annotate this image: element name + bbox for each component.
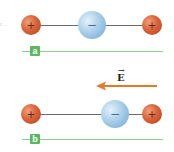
cropped-edge-text: r... [0,21,7,27]
negative-charge-a: − [78,11,106,39]
axis-line-a [22,51,163,52]
positive-charge-left-a: + [21,15,41,35]
minus-icon: − [87,18,97,32]
minus-icon: − [110,107,120,121]
positive-charge-left-b: + [21,104,41,124]
plus-icon: + [27,20,35,31]
vector-arrow-icon: → [118,66,125,75]
rod-b [31,114,152,115]
positive-charge-right-b: + [142,104,162,124]
axis-line-b [22,139,163,140]
plus-icon: + [148,20,156,31]
negative-charge-b: − [101,100,129,128]
electric-field-arrow-icon [95,80,159,92]
panel-label-b: b [30,134,40,144]
plus-icon: + [27,109,35,120]
plus-icon: + [148,109,156,120]
positive-charge-right-a: + [142,15,162,35]
panel-label-a: a [30,46,40,56]
